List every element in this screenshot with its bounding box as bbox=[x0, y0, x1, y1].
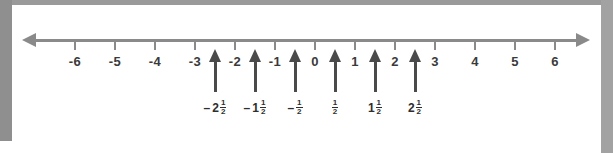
marker-sign: – bbox=[204, 101, 211, 115]
axis-tick bbox=[314, 42, 316, 50]
axis-tick-label: 6 bbox=[535, 54, 575, 69]
marker-pointer-shaft bbox=[414, 60, 417, 92]
marker-value-label: 212 bbox=[385, 100, 445, 118]
axis-tick-label: 4 bbox=[455, 54, 495, 69]
axis-tick bbox=[394, 42, 396, 50]
marker-pointer-shaft bbox=[374, 60, 377, 92]
number-line-figure: -6-5-4-3-2-10123456 –212–112–1212112212 bbox=[0, 0, 613, 153]
axis-tick-label: -4 bbox=[135, 54, 175, 69]
marker-pointer-shaft bbox=[294, 60, 297, 92]
fraction-denominator: 2 bbox=[416, 107, 422, 116]
figure-canvas bbox=[12, 5, 601, 153]
fraction-numerator: 1 bbox=[416, 99, 422, 107]
axis-tick bbox=[274, 42, 276, 50]
axis-tick bbox=[114, 42, 116, 50]
marker-whole-part: 2 bbox=[212, 101, 219, 115]
marker-fraction: 12 bbox=[376, 99, 382, 117]
marker-sign: – bbox=[244, 101, 251, 115]
axis-tick bbox=[474, 42, 476, 50]
marker-whole-part: 1 bbox=[252, 101, 259, 115]
axis-tick bbox=[434, 42, 436, 50]
marker-fraction: 12 bbox=[296, 99, 302, 117]
arrow-up-icon bbox=[289, 49, 301, 62]
page-frame-right bbox=[601, 0, 613, 153]
marker-whole-part: 2 bbox=[408, 101, 415, 115]
axis-tick-label: -6 bbox=[55, 54, 95, 69]
marker-whole-part: 1 bbox=[368, 101, 375, 115]
fraction-denominator: 2 bbox=[332, 107, 338, 116]
marker-fraction: 12 bbox=[416, 99, 422, 117]
axis-tick bbox=[514, 42, 516, 50]
fraction-numerator: 1 bbox=[296, 99, 302, 107]
axis-tick-label: 5 bbox=[495, 54, 535, 69]
axis-tick bbox=[194, 42, 196, 50]
arrow-up-icon bbox=[369, 49, 381, 62]
arrow-up-icon bbox=[249, 49, 261, 62]
marker-pointer-shaft bbox=[214, 60, 217, 92]
axis-tick bbox=[354, 42, 356, 50]
axis-arrowhead-right bbox=[576, 33, 590, 47]
fraction-numerator: 1 bbox=[332, 99, 338, 107]
axis-tick bbox=[554, 42, 556, 50]
marker-fraction: 12 bbox=[332, 99, 338, 117]
axis-tick bbox=[154, 42, 156, 50]
number-line-axis bbox=[30, 39, 582, 42]
fraction-denominator: 2 bbox=[296, 107, 302, 116]
fraction-numerator: 1 bbox=[376, 99, 382, 107]
arrow-up-icon bbox=[409, 49, 421, 62]
axis-tick-label: -5 bbox=[95, 54, 135, 69]
axis-tick-label: 3 bbox=[415, 54, 455, 69]
marker-sign: – bbox=[287, 101, 294, 115]
fraction-denominator: 2 bbox=[376, 107, 382, 116]
axis-tick bbox=[74, 42, 76, 50]
marker-pointer-shaft bbox=[334, 60, 337, 92]
marker-pointer-shaft bbox=[254, 60, 257, 92]
arrow-up-icon bbox=[329, 49, 341, 62]
axis-tick bbox=[234, 42, 236, 50]
page-frame-left bbox=[0, 0, 12, 141]
arrow-up-icon bbox=[209, 49, 221, 62]
